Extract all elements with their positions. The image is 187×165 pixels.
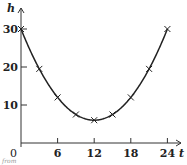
x-tick-label: 6 [54, 147, 62, 160]
y-tick-label: 10 [3, 99, 19, 112]
x-axis-label: t [179, 147, 184, 160]
y-axis-label: h [7, 2, 15, 15]
y-tick-label: 20 [3, 61, 19, 74]
x-marker-icon [36, 66, 42, 72]
x-marker-icon [55, 94, 61, 100]
axes [18, 8, 181, 147]
x-marker-icon [146, 66, 152, 72]
x-marker-icon [128, 94, 134, 100]
parabola-curve [21, 29, 167, 120]
x-tick-label: 24 [160, 147, 176, 160]
y-tick-label: 30 [3, 23, 19, 36]
data-markers [18, 26, 170, 123]
cropped-caption: from [2, 157, 16, 164]
axis-labels: ht06121824102030 [3, 2, 184, 160]
data-curve [21, 29, 167, 120]
chart: ht06121824102030 [0, 0, 187, 165]
x-tick-label: 18 [123, 147, 139, 160]
x-marker-icon [110, 112, 116, 118]
x-marker-icon [164, 26, 170, 32]
x-tick-label: 12 [87, 147, 102, 160]
x-marker-icon [73, 112, 79, 118]
